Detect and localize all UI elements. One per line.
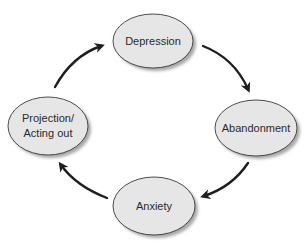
node-abandonment: Abandonment (215, 100, 300, 159)
node-label-anxiety: Anxiety (136, 200, 173, 212)
node-label-depression: Depression (125, 35, 181, 47)
cycle-diagram: Depression Abandonment Anxiety Projectio… (0, 0, 308, 245)
node-anxiety: Anxiety (113, 177, 198, 238)
node-label-projection: Projection/ (22, 112, 75, 124)
node-depression: Depression (113, 14, 196, 71)
arrow-abandonment-to-anxiety (204, 163, 248, 196)
node-shape (8, 97, 88, 155)
arrow-anxiety-to-projection (61, 165, 107, 198)
node-projection: Projection/ Acting out (8, 97, 91, 158)
node-label-abandonment: Abandonment (222, 122, 291, 134)
diagram-canvas: Depression Abandonment Anxiety Projectio… (0, 0, 308, 245)
arrow-depression-to-abandonment (203, 46, 248, 89)
arrow-projection-to-depression (55, 46, 101, 87)
node-label-acting-out: Acting out (24, 127, 73, 139)
